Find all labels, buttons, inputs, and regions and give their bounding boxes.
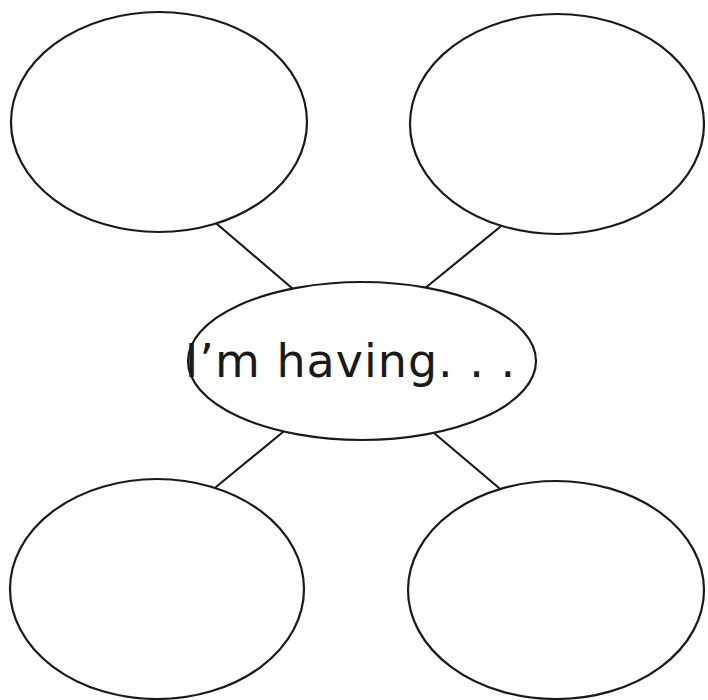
center-bubble-label: I’m having. . .: [188, 326, 537, 396]
bubble-bottom-left[interactable]: [10, 479, 304, 699]
bubble-top-right[interactable]: [410, 14, 704, 234]
connector-bottom-right: [434, 433, 499, 488]
bubble-bottom-right[interactable]: [408, 481, 704, 699]
connector-top-left: [217, 224, 293, 289]
connector-top-right: [424, 227, 500, 289]
connector-bottom-left: [216, 432, 283, 487]
bubble-top-left[interactable]: [11, 12, 307, 232]
